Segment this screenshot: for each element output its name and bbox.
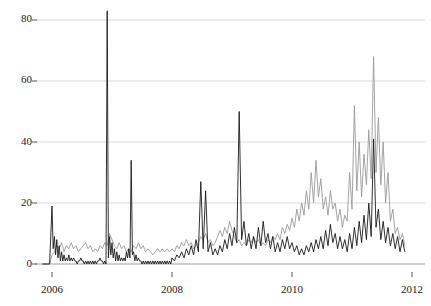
- series-black-path: [42, 11, 404, 264]
- y-tick-label-60: 60: [6, 74, 32, 85]
- y-tick-label-80: 80: [6, 13, 32, 24]
- chart-container: 80 60 40 20 0 2006 2008 2010 2012: [0, 0, 431, 306]
- x-axis-ticks: [52, 272, 412, 277]
- gridlines: [36, 20, 425, 264]
- x-tick-label-2010: 2010: [272, 284, 312, 295]
- y-tick-label-0: 0: [6, 258, 32, 269]
- y-tick-label-20: 20: [6, 197, 32, 208]
- y-tick-label-40: 40: [6, 136, 32, 147]
- x-tick-label-2008: 2008: [152, 284, 192, 295]
- x-tick-label-2006: 2006: [32, 284, 72, 295]
- series-gray: [42, 57, 404, 264]
- chart-plot-area: [0, 0, 431, 306]
- series-gray-path: [42, 57, 404, 264]
- series-black: [42, 11, 404, 264]
- y-axis-ticks: [32, 20, 37, 264]
- x-tick-label-2012: 2012: [392, 284, 431, 295]
